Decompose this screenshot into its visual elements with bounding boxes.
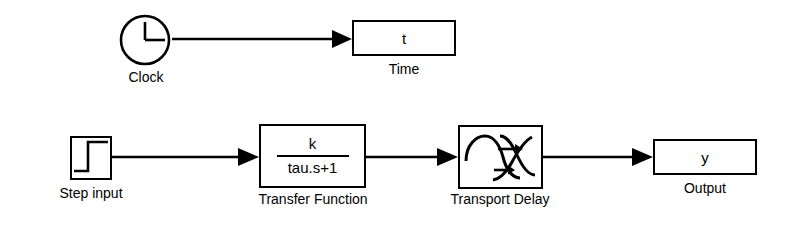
block-time[interactable]: t	[352, 20, 456, 56]
block-diagram-canvas: Clock t Time Step input k tau.s+1 Transf…	[0, 0, 788, 227]
wire-clock-to-time	[172, 30, 352, 48]
block-transfer-function[interactable]: k tau.s+1	[259, 124, 366, 188]
transport-delay-icon	[460, 127, 541, 187]
block-clock[interactable]	[118, 13, 172, 67]
step-icon	[72, 138, 110, 178]
output-block-value: y	[701, 150, 709, 165]
time-block-value: t	[402, 31, 406, 46]
caption-transfer-function: Transfer Function	[237, 192, 389, 206]
fraction-bar	[277, 155, 349, 157]
caption-step-input: Step input	[32, 186, 150, 200]
caption-output: Output	[667, 181, 743, 195]
clock-icon	[118, 13, 172, 67]
wire-transfer-function-to-transport-delay	[366, 148, 458, 166]
block-transport-delay[interactable]	[458, 125, 543, 189]
caption-time: Time	[366, 62, 442, 76]
wire-step-to-transfer-function	[112, 148, 259, 166]
caption-clock: Clock	[108, 70, 184, 84]
block-step-input[interactable]	[70, 136, 112, 180]
caption-transport-delay: Transport Delay	[432, 192, 568, 206]
block-output[interactable]: y	[653, 139, 757, 175]
transfer-function-denominator: tau.s+1	[288, 160, 338, 176]
wire-transport-delay-to-output	[543, 148, 653, 166]
transfer-function-numerator: k	[309, 136, 317, 152]
